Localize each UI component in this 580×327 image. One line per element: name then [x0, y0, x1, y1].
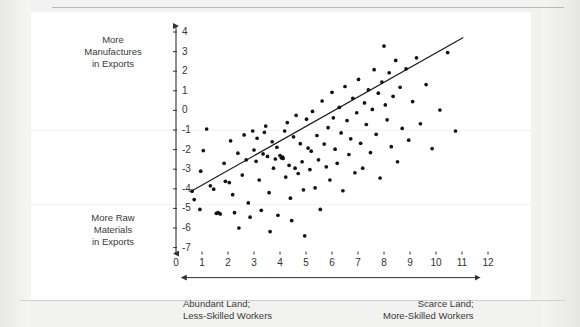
data-point — [322, 142, 326, 146]
data-point — [300, 160, 304, 164]
x-tick-label: 11 — [453, 258, 471, 268]
data-point — [335, 161, 339, 165]
x-axis-caption-right-line-1: Scarce Land; — [383, 298, 474, 310]
y-tick-label: -6 — [182, 223, 200, 233]
data-point — [272, 166, 276, 170]
data-point — [236, 151, 240, 155]
data-point — [284, 175, 288, 179]
data-point — [252, 148, 256, 152]
data-point — [298, 142, 302, 146]
data-point — [201, 149, 205, 153]
y-axis-label-top-line-1: More — [75, 34, 151, 46]
page-left-margin — [0, 0, 30, 327]
data-point — [369, 151, 373, 155]
data-point — [229, 139, 233, 143]
y-tick-label: 1 — [182, 86, 200, 96]
x-tick-label: 10 — [427, 258, 445, 268]
data-point — [294, 113, 298, 117]
data-point — [192, 198, 196, 202]
data-point — [218, 212, 222, 216]
data-point — [205, 127, 209, 131]
x-axis-caption-left-line-2: Less-Skilled Workers — [183, 310, 272, 322]
y-tick-label: 0 — [182, 105, 200, 115]
data-point — [257, 178, 261, 182]
data-point — [248, 215, 252, 219]
data-point — [396, 160, 400, 164]
data-point — [287, 163, 291, 167]
x-axis-caption-left-line-1: Abundant Land; — [183, 298, 272, 310]
x-tick-label: 0 — [167, 258, 185, 268]
y-axis-label-top-line-3: in Exports — [75, 58, 151, 70]
x-axis-caption-right-line-2: More-Skilled Workers — [383, 310, 474, 322]
data-point — [296, 172, 300, 176]
data-point — [374, 132, 378, 136]
x-tick-label: 5 — [297, 258, 315, 268]
data-point — [254, 160, 258, 164]
data-point — [317, 158, 321, 162]
page-right-margin — [542, 0, 580, 327]
y-tick-label: 3 — [182, 47, 200, 57]
data-point — [387, 71, 391, 75]
data-point — [227, 181, 231, 185]
data-point — [370, 108, 374, 112]
data-point — [330, 91, 334, 95]
data-point — [283, 129, 287, 133]
data-point — [208, 184, 212, 188]
data-point — [261, 152, 265, 156]
data-point — [212, 187, 216, 191]
data-point — [270, 140, 274, 144]
data-point — [275, 145, 279, 149]
data-point — [276, 213, 280, 217]
data-point — [372, 68, 376, 72]
data-point — [430, 147, 434, 151]
data-point — [355, 111, 359, 115]
data-point — [343, 85, 347, 89]
data-point — [311, 110, 315, 114]
x-axis-caption-left: Abundant Land; Less-Skilled Workers — [183, 298, 272, 322]
x-tick-label: 1 — [193, 258, 211, 268]
data-point — [326, 126, 330, 130]
data-point — [385, 118, 389, 122]
data-point — [446, 51, 450, 55]
y-tick-label: -4 — [182, 184, 200, 194]
data-point — [400, 127, 404, 131]
data-point — [363, 101, 367, 105]
data-point — [308, 168, 312, 172]
data-point — [367, 88, 371, 92]
y-axis-label-bottom-line-3: in Exports — [75, 236, 151, 248]
data-point — [237, 226, 241, 230]
data-point — [242, 133, 246, 137]
data-point — [251, 129, 255, 133]
data-point — [331, 116, 335, 120]
data-point — [320, 99, 324, 103]
data-point — [339, 131, 343, 135]
y-tick-label: 2 — [182, 66, 200, 76]
data-point — [318, 208, 322, 212]
data-point — [263, 131, 267, 135]
y-axis-label-bottom: More Raw Materials in Exports — [75, 212, 151, 248]
y-tick-label: -5 — [182, 203, 200, 213]
y-tick-label: 4 — [182, 27, 200, 37]
y-tick-label: -2 — [182, 145, 200, 155]
data-point — [438, 108, 442, 112]
data-point — [240, 173, 244, 177]
data-point — [268, 230, 272, 234]
y-axis-label-bottom-line-1: More Raw — [75, 212, 151, 224]
data-point — [264, 124, 268, 128]
data-point — [255, 136, 259, 140]
x-tick-label: 4 — [271, 258, 289, 268]
data-point — [328, 178, 332, 182]
data-point — [382, 44, 386, 48]
data-point — [398, 85, 402, 89]
data-point — [347, 153, 351, 157]
data-point — [333, 147, 337, 151]
x-tick-label: 8 — [375, 258, 393, 268]
data-point — [349, 137, 353, 141]
data-point — [303, 234, 307, 238]
data-point — [305, 117, 309, 121]
scanned-page: More Manufactures in Exports More Raw Ma… — [0, 0, 580, 327]
data-point — [315, 134, 319, 138]
data-point — [259, 209, 263, 213]
data-point — [424, 83, 428, 87]
data-point — [324, 165, 328, 169]
